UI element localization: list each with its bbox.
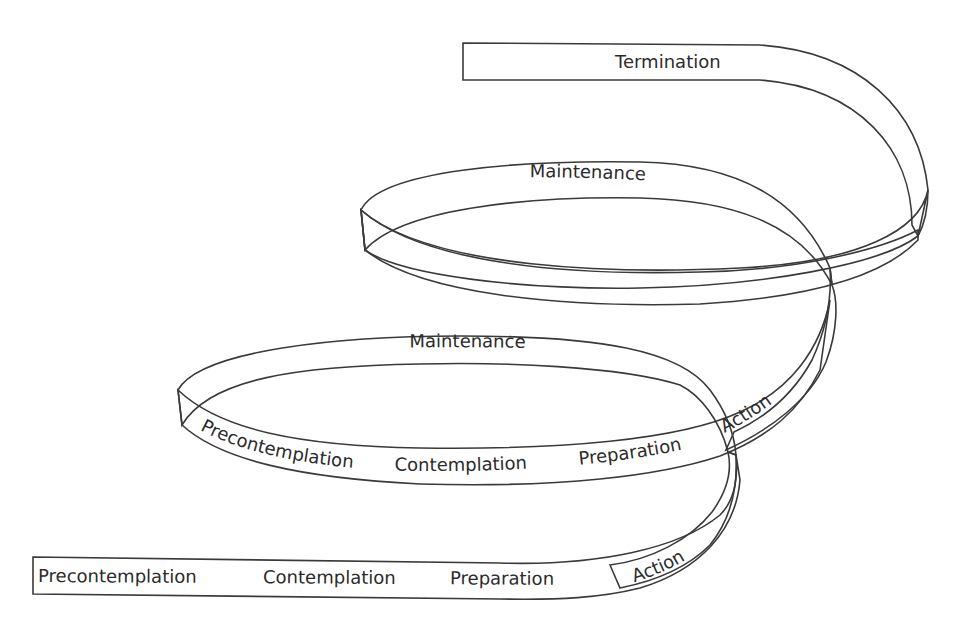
- label-lower-contemplation: Contemplation: [394, 452, 527, 475]
- label-termination: Termination: [614, 51, 721, 72]
- label-lower-maintenance: Maintenance: [409, 330, 526, 352]
- label-upper-maintenance: Maintenance: [530, 160, 647, 184]
- upper-loop-front: [361, 190, 928, 305]
- label-bottom-contemplation: Contemplation: [263, 566, 396, 588]
- label-bottom-precontemplation: Precontemplation: [38, 565, 197, 587]
- label-bottom-preparation: Preparation: [450, 567, 554, 589]
- spiral-diagram: Termination Maintenance Maintenance Prec…: [0, 0, 956, 636]
